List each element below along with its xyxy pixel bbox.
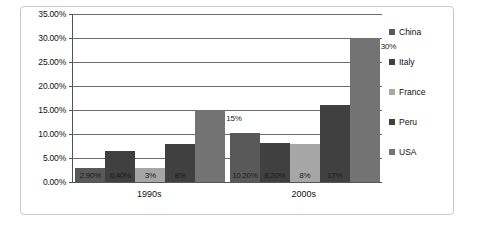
bar-usa-1990s[interactable]: 15% xyxy=(195,110,225,182)
y-axis-tick-label: 35.00% xyxy=(38,9,66,19)
bar-value-label: 2.90% xyxy=(80,171,101,180)
legend-swatch-icon xyxy=(389,29,395,35)
legend-swatch-icon xyxy=(389,59,395,65)
legend-label: China xyxy=(399,27,421,37)
chart-legend: ChinaItalyFrancePeruUSA xyxy=(389,17,451,185)
legend-item-peru[interactable]: Peru xyxy=(389,107,451,137)
legend-item-france[interactable]: France xyxy=(389,77,451,107)
bar-slot: 10.20% xyxy=(230,14,260,182)
plot-area: 2.90%6.40%3%8%15%10.20%8.20%8%17%30% xyxy=(72,14,382,183)
bar-italy-1990s[interactable]: 6.40% xyxy=(105,151,135,182)
x-axis-category-label: 2000s xyxy=(227,189,382,205)
bar-china-1990s[interactable]: 2.90% xyxy=(75,168,105,182)
legend-item-usa[interactable]: USA xyxy=(389,137,451,167)
bar-groups: 2.90%6.40%3%8%15%10.20%8.20%8%17%30% xyxy=(73,14,382,182)
legend-swatch-icon xyxy=(389,149,395,155)
legend-label: Peru xyxy=(399,117,417,127)
y-axis-tick-labels: 0.00%5.00%10.00%15.00%20.00%25.00%30.00%… xyxy=(21,14,69,182)
bar-slot: 15% xyxy=(195,14,225,182)
legend-label: Italy xyxy=(399,57,415,67)
y-axis-tick-label: 30.00% xyxy=(38,33,66,43)
bar-slot: 30% xyxy=(350,14,380,182)
legend-item-italy[interactable]: Italy xyxy=(389,47,451,77)
legend-swatch-icon xyxy=(389,89,395,95)
bar-value-label: 8.20% xyxy=(264,171,285,180)
bar-france-2000s[interactable]: 8% xyxy=(290,144,320,182)
bar-italy-2000s[interactable]: 8.20% xyxy=(260,143,290,182)
bar-slot: 6.40% xyxy=(105,14,135,182)
y-axis-tick-label: 5.00% xyxy=(43,153,66,163)
x-axis-category-labels: 1990s2000s xyxy=(72,189,381,205)
bar-peru-2000s[interactable]: 17% xyxy=(320,105,350,182)
y-axis-tick-label: 15.00% xyxy=(38,105,66,115)
bar-slot: 2.90% xyxy=(75,14,105,182)
bar-group: 10.20%8.20%8%17%30% xyxy=(228,14,383,182)
bar-value-label: 8% xyxy=(299,171,310,180)
bar-slot: 8% xyxy=(165,14,195,182)
legend-label: USA xyxy=(399,147,416,157)
y-axis-tick-label: 25.00% xyxy=(38,57,66,67)
bar-value-label: 6.40% xyxy=(110,171,131,180)
y-axis-tick-label: 0.00% xyxy=(43,177,66,187)
y-axis-tick-label: 10.00% xyxy=(38,129,66,139)
chart-plot-wrapper: 0.00%5.00%10.00%15.00%20.00%25.00%30.00%… xyxy=(21,7,453,214)
bar-group: 2.90%6.40%3%8%15% xyxy=(73,14,228,182)
bar-slot: 8.20% xyxy=(260,14,290,182)
bar-france-1990s[interactable]: 3% xyxy=(135,168,165,182)
chart-frame: 0.00%5.00%10.00%15.00%20.00%25.00%30.00%… xyxy=(20,6,454,215)
bar-value-label: 3% xyxy=(145,171,156,180)
y-axis-tickmark xyxy=(69,182,73,183)
bar-slot: 8% xyxy=(290,14,320,182)
y-axis-tick-label: 20.00% xyxy=(38,81,66,91)
bar-slot: 17% xyxy=(320,14,350,182)
bar-slot: 3% xyxy=(135,14,165,182)
x-axis-category-label: 1990s xyxy=(72,189,227,205)
bar-value-label: 10.20% xyxy=(232,171,257,180)
bar-usa-2000s[interactable]: 30% xyxy=(350,38,380,182)
legend-swatch-icon xyxy=(389,119,395,125)
legend-label: France xyxy=(399,87,425,97)
bar-peru-1990s[interactable]: 8% xyxy=(165,144,195,182)
legend-item-china[interactable]: China xyxy=(389,17,451,47)
bar-value-label: 8% xyxy=(175,171,186,180)
bar-value-label: 17% xyxy=(327,171,342,180)
bar-china-2000s[interactable]: 10.20% xyxy=(230,133,260,182)
